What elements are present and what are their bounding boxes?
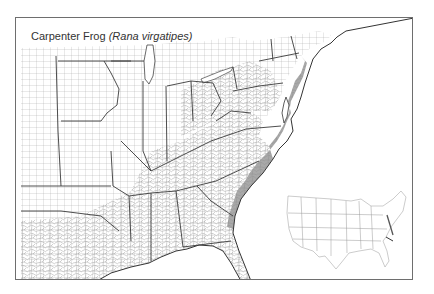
map-frame: Carpenter Frog (Rana virgatipes) <box>15 17 413 280</box>
species-common-name: Carpenter Frog <box>31 30 106 42</box>
map-title: Carpenter Frog (Rana virgatipes) <box>31 30 192 42</box>
chesapeake-bay <box>282 97 289 123</box>
species-scientific-name: (Rana virgatipes) <box>109 30 193 42</box>
range-map <box>16 18 413 280</box>
